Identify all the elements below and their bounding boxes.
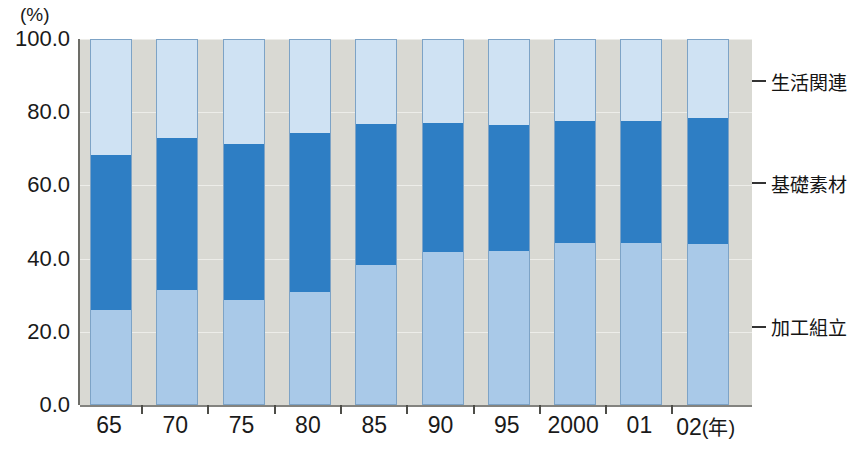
bar-segment-90-基礎素材 — [422, 123, 464, 252]
legend-leader-line-icon — [752, 182, 766, 184]
x-tick-label-75: 75 — [229, 412, 255, 439]
bar-85 — [355, 39, 397, 405]
legend-item-label: 加工組立 — [771, 313, 847, 340]
bar-01 — [620, 39, 662, 405]
x-tick-label-80: 80 — [295, 412, 321, 439]
x-tick-mark-8 — [671, 405, 673, 414]
bar-segment-95-生活関連 — [488, 39, 530, 125]
legend-leader-line-icon — [752, 326, 766, 328]
bar-segment-2000-基礎素材 — [554, 121, 596, 243]
bar-segment-2000-生活関連 — [554, 39, 596, 121]
bar-80 — [289, 39, 331, 405]
legend-item-加工組立: 加工組立 — [752, 313, 847, 340]
bar-segment-01-生活関連 — [620, 39, 662, 121]
y-tick-label-60.0: 60.0 — [0, 172, 70, 198]
y-tick-label-20.0: 20.0 — [0, 319, 70, 345]
bar-segment-02-生活関連 — [687, 39, 729, 118]
legend-item-label: 基礎素材 — [771, 170, 847, 197]
y-tick-label-80.0: 80.0 — [0, 99, 70, 125]
bar-segment-65-生活関連 — [90, 39, 132, 155]
bar-75 — [223, 39, 265, 405]
plot-area — [78, 39, 752, 405]
bar-segment-85-基礎素材 — [355, 124, 397, 265]
x-tick-mark-6 — [539, 405, 541, 414]
bar-2000 — [554, 39, 596, 405]
bar-segment-90-生活関連 — [422, 39, 464, 123]
legend-item-生活関連: 生活関連 — [752, 68, 847, 95]
bar-segment-01-加工組立 — [620, 243, 662, 405]
bar-segment-75-加工組立 — [223, 300, 265, 405]
bar-segment-90-加工組立 — [422, 252, 464, 405]
x-tick-label-95: 95 — [494, 412, 520, 439]
x-tick-label-02: 02(年) — [676, 412, 735, 441]
bar-segment-02-基礎素材 — [687, 118, 729, 244]
bar-segment-95-基礎素材 — [488, 125, 530, 251]
bar-segment-85-生活関連 — [355, 39, 397, 124]
bar-segment-02-加工組立 — [687, 244, 729, 405]
x-tick-mark-7 — [605, 405, 607, 414]
bar-segment-01-基礎素材 — [620, 121, 662, 243]
bar-65 — [90, 39, 132, 405]
x-tick-mark-4 — [406, 405, 408, 414]
x-axis-unit-label: (年) — [702, 417, 735, 439]
x-tick-label-65: 65 — [96, 412, 122, 439]
x-tick-label-70: 70 — [163, 412, 189, 439]
legend-item-label: 生活関連 — [771, 68, 847, 95]
bar-segment-80-加工組立 — [289, 292, 331, 405]
bar-segment-75-基礎素材 — [223, 144, 265, 300]
bar-segment-70-加工組立 — [156, 290, 198, 405]
bar-90 — [422, 39, 464, 405]
x-tick-mark-5 — [473, 405, 475, 414]
x-tick-mark-3 — [340, 405, 342, 414]
x-tick-label-90: 90 — [428, 412, 454, 439]
bar-segment-70-基礎素材 — [156, 138, 198, 290]
x-tick-mark-0 — [141, 405, 143, 414]
bar-segment-65-加工組立 — [90, 310, 132, 405]
bar-segment-85-加工組立 — [355, 265, 397, 405]
y-tick-label-0.0: 0.0 — [0, 392, 70, 418]
bar-02 — [687, 39, 729, 405]
x-tick-label-2000: 2000 — [548, 412, 599, 439]
legend-leader-line-icon — [752, 80, 766, 82]
bar-segment-75-生活関連 — [223, 39, 265, 144]
x-tick-label-01: 01 — [627, 412, 653, 439]
y-axis-unit-label: (%) — [20, 4, 50, 26]
bar-95 — [488, 39, 530, 405]
bar-segment-65-基礎素材 — [90, 155, 132, 310]
y-tick-label-100.0: 100.0 — [0, 26, 70, 52]
bar-segment-80-基礎素材 — [289, 133, 331, 292]
gridline-0.0 — [80, 405, 752, 407]
y-tick-label-40.0: 40.0 — [0, 246, 70, 272]
x-tick-label-85: 85 — [361, 412, 387, 439]
legend-item-基礎素材: 基礎素材 — [752, 170, 847, 197]
x-tick-mark-1 — [207, 405, 209, 414]
x-tick-mark-2 — [274, 405, 276, 414]
bar-segment-80-生活関連 — [289, 39, 331, 133]
bar-segment-95-加工組立 — [488, 251, 530, 405]
bar-70 — [156, 39, 198, 405]
bar-segment-70-生活関連 — [156, 39, 198, 138]
bar-segment-2000-加工組立 — [554, 243, 596, 405]
